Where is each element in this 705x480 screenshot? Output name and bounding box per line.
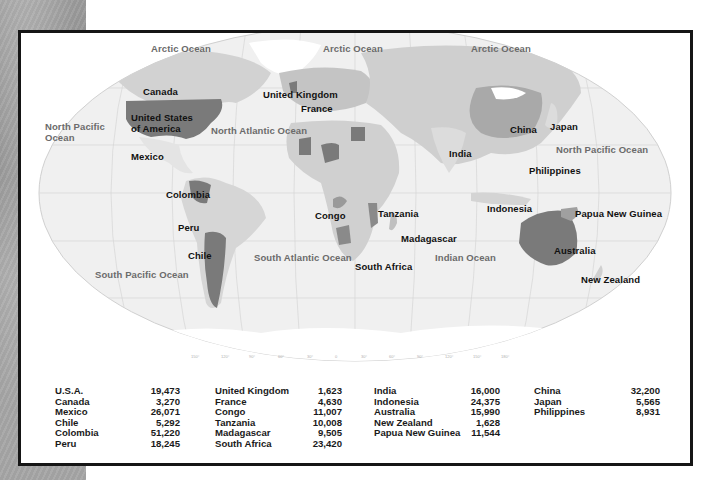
egypt-shape — [351, 127, 365, 141]
ocean-label-north-pacific-west: North Pacific Ocean — [45, 121, 105, 143]
country-label-congo: Congo — [315, 210, 346, 221]
country-value: 8,931 — [604, 407, 660, 418]
country-label-peru: Peru — [178, 222, 200, 233]
country-name: Peru — [55, 439, 76, 450]
country-label-tanzania: Tanzania — [378, 208, 419, 219]
svg-text:60°: 60° — [389, 354, 395, 359]
country-value: 16,000 — [454, 386, 500, 397]
country-label-indonesia: Indonesia — [487, 203, 532, 214]
world-map: 150°120°90° 60°30°0 30°60°90° 120°150°18… — [21, 33, 690, 373]
ocean-label-arctic-2: Arctic Ocean — [323, 43, 383, 54]
ocean-label-north-atlantic: North Atlantic Ocean — [211, 125, 307, 136]
svg-text:180°: 180° — [501, 354, 510, 359]
svg-text:150°: 150° — [191, 354, 200, 359]
country-name: China — [534, 386, 561, 397]
country-label-china: China — [510, 124, 537, 135]
country-label-canada: Canada — [143, 86, 178, 97]
map-card: 150°120°90° 60°30°0 30°60°90° 120°150°18… — [18, 30, 693, 466]
country-name: South Africa — [215, 439, 272, 450]
country-label-france: France — [301, 103, 333, 114]
ocean-label-arctic-3: Arctic Ocean — [471, 43, 531, 54]
country-label-new-zealand: New Zealand — [581, 274, 640, 285]
mauritania-shape — [299, 137, 311, 155]
svg-text:90°: 90° — [417, 354, 423, 359]
country-label-japan: Japan — [550, 121, 578, 132]
country-value: 19,473 — [115, 386, 180, 397]
country-label-papua-new-guinea: Papua New Guinea — [575, 208, 662, 219]
country-name: Philippines — [534, 407, 585, 418]
world-map-graphic: 150°120°90° 60°30°0 30°60°90° 120°150°18… — [21, 33, 690, 373]
svg-text:30°: 30° — [361, 354, 367, 359]
country-label-colombia: Colombia — [166, 189, 210, 200]
svg-text:60°: 60° — [278, 354, 284, 359]
country-name: U.S.A. — [55, 386, 83, 397]
country-name: India — [374, 386, 396, 397]
country-label-philippines: Philippines — [529, 165, 581, 176]
country-label-mexico: Mexico — [131, 151, 164, 162]
country-label-south-africa: South Africa — [355, 261, 412, 272]
svg-text:120°: 120° — [445, 354, 454, 359]
ocean-label-south-pacific: South Pacific Ocean — [95, 269, 189, 280]
svg-text:90°: 90° — [249, 354, 255, 359]
country-name: Papua New Guinea — [374, 428, 460, 439]
antarctica — [21, 326, 681, 374]
alaska-shape — [79, 61, 121, 85]
country-name: United Kingdom — [215, 386, 289, 397]
svg-text:150°: 150° — [473, 354, 482, 359]
country-value: 11,544 — [454, 428, 500, 439]
country-label-australia: Australia — [554, 245, 596, 256]
country-value: 18,245 — [115, 439, 180, 450]
country-label-usa: United States of America — [131, 112, 193, 134]
country-label-uk: United Kingdom — [263, 89, 338, 100]
country-label-india: India — [449, 148, 472, 159]
country-label-madagascar: Madagascar — [401, 233, 457, 244]
ocean-label-south-atlantic: South Atlantic Ocean — [254, 252, 352, 263]
ocean-label-north-pacific-east: North Pacific Ocean — [556, 144, 648, 155]
svg-text:30°: 30° — [307, 354, 313, 359]
country-label-chile: Chile — [188, 250, 212, 261]
ocean-label-arctic-1: Arctic Ocean — [151, 43, 211, 54]
country-value: 1,623 — [295, 386, 342, 397]
ocean-label-indian: Indian Ocean — [435, 252, 496, 263]
country-value: 23,420 — [295, 439, 342, 450]
country-value: 32,200 — [604, 386, 660, 397]
svg-text:120°: 120° — [221, 354, 230, 359]
